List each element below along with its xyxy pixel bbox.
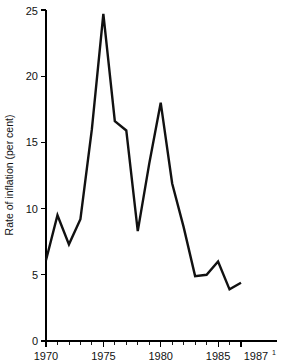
- x-axis-tick-labels: 1970 1975 1980 1985 1987 1: [34, 349, 276, 362]
- y-axis-tick-labels: 0 5 10 15 20 25: [26, 5, 38, 348]
- x-tick-label-1985: 1985: [206, 350, 230, 362]
- y-axis-title: Rate of inflation (per cent): [3, 115, 15, 236]
- x-tick-label-1975: 1975: [91, 350, 115, 362]
- y-axis-ticks: [41, 10, 46, 341]
- inflation-rate-line: [46, 14, 241, 289]
- y-tick-label-20: 20: [26, 70, 38, 82]
- x-tick-label-1987: 1987: [244, 350, 268, 362]
- y-tick-label-25: 25: [26, 5, 38, 17]
- x-tick-label-1980: 1980: [148, 350, 172, 362]
- y-tick-label-5: 5: [32, 269, 38, 281]
- footnote-superscript-marker: 1: [272, 349, 276, 356]
- x-tick-label-1970: 1970: [34, 350, 58, 362]
- x-axis-minor-ticks: [58, 341, 230, 345]
- x-axis-major-ticks: [46, 341, 241, 347]
- y-tick-label-10: 10: [26, 203, 38, 215]
- data-series-group: [46, 14, 241, 289]
- y-tick-label-15: 15: [26, 136, 38, 148]
- y-tick-label-0: 0: [32, 335, 38, 347]
- axis-lines: [46, 10, 277, 341]
- inflation-rate-line-chart: Rate of inflation (per cent) 0 5 10 15 2…: [0, 0, 281, 363]
- y-axis-title-text: Rate of inflation (per cent): [3, 115, 15, 236]
- chart-canvas: Rate of inflation (per cent) 0 5 10 15 2…: [0, 0, 281, 363]
